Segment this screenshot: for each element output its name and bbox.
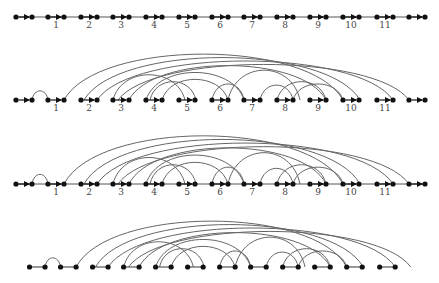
node-dot (264, 264, 269, 269)
node-dot (390, 181, 395, 186)
node-dot (241, 14, 246, 19)
pair-label: 9 (315, 20, 321, 30)
node-dot (126, 181, 131, 186)
node-dot (192, 97, 197, 102)
pair-label: 10 (345, 187, 357, 197)
connection-arc (76, 221, 347, 267)
connection-arc (293, 167, 343, 184)
node-dot (137, 264, 142, 269)
node-dot (209, 181, 214, 186)
connection-arc (64, 54, 343, 100)
connection-arc (124, 242, 194, 267)
pair-label: 6 (217, 20, 223, 30)
node-dot (29, 97, 34, 102)
node-dot (312, 264, 317, 269)
node-dot (29, 181, 34, 186)
node-dot (225, 14, 230, 19)
pair-label: 5 (184, 187, 190, 197)
connection-arc (298, 251, 347, 267)
pair-label: 1 (53, 20, 59, 30)
pair-label: 8 (282, 187, 288, 197)
connection-arc (84, 139, 360, 184)
node-dot (225, 181, 230, 186)
pair-label: 8 (282, 20, 288, 30)
node-dot (340, 14, 345, 19)
pair-label: 11 (379, 187, 390, 197)
node-dot (94, 14, 99, 19)
node-dot (323, 97, 328, 102)
node-dot (248, 264, 253, 269)
pair-label: 3 (118, 20, 124, 30)
node-dot (110, 181, 115, 186)
node-dot (78, 14, 83, 19)
node-dot (13, 14, 18, 19)
node-dot (307, 14, 312, 19)
node-dot (94, 181, 99, 186)
pair-label: 10 (345, 103, 357, 113)
node-dot (159, 181, 164, 186)
pair-label: 1 (53, 103, 59, 113)
connection-arc (293, 84, 343, 100)
connection-arc (95, 225, 363, 267)
pair-label: 10 (345, 20, 357, 30)
connection-arc (32, 174, 48, 184)
diagram-canvas: 123456789101112345678910111234567891011 (0, 0, 439, 283)
node-dot (390, 14, 395, 19)
node-dot (143, 97, 148, 102)
node-dot (217, 264, 222, 269)
node-dot (110, 97, 115, 102)
node-dot (13, 181, 18, 186)
node-dot (233, 264, 238, 269)
node-dot (143, 181, 148, 186)
node-dot (323, 181, 328, 186)
pair-label: 9 (315, 103, 321, 113)
node-dot (344, 264, 349, 269)
node-dot (159, 14, 164, 19)
node-dot (290, 14, 295, 19)
node-dot (29, 14, 34, 19)
node-dot (274, 97, 279, 102)
pair-label: 8 (282, 103, 288, 113)
node-dot (192, 181, 197, 186)
pair-label: 7 (249, 103, 255, 113)
node-dot (27, 264, 32, 269)
pair-label: 3 (118, 187, 124, 197)
node-dot (393, 264, 398, 269)
node-dot (159, 97, 164, 102)
node-dot (356, 181, 361, 186)
pair-label: 11 (379, 103, 390, 113)
node-dot (42, 264, 47, 269)
pair-label: 9 (315, 187, 321, 197)
node-dot (176, 97, 181, 102)
pair-label: 6 (217, 103, 223, 113)
node-dot (225, 97, 230, 102)
node-dot (13, 97, 18, 102)
node-dot (257, 14, 262, 19)
pair-label: 7 (249, 187, 255, 197)
node-dot (296, 264, 301, 269)
node-dot (94, 97, 99, 102)
diagram-rows: 123456789101112345678910111234567891011 (13, 14, 427, 269)
node-dot (374, 97, 379, 102)
node-dot (105, 264, 110, 269)
node-dot (78, 97, 83, 102)
node-dot (209, 14, 214, 19)
node-dot (390, 97, 395, 102)
pair-label: 2 (86, 187, 92, 197)
diagram-row3: 1234567891011 (13, 136, 427, 197)
diagram-row4 (27, 221, 411, 269)
node-dot (280, 264, 285, 269)
node-dot (192, 14, 197, 19)
node-dot (110, 14, 115, 19)
node-dot (58, 264, 63, 269)
node-dot (356, 14, 361, 19)
node-dot (422, 14, 427, 19)
node-dot (360, 264, 365, 269)
node-dot (290, 97, 295, 102)
diagram-row2: 1234567891011 (13, 54, 427, 113)
connection-arc (113, 158, 185, 184)
pair-label: 5 (184, 20, 190, 30)
node-dot (422, 97, 427, 102)
pair-label: 4 (151, 103, 157, 113)
pair-label: 6 (217, 187, 223, 197)
